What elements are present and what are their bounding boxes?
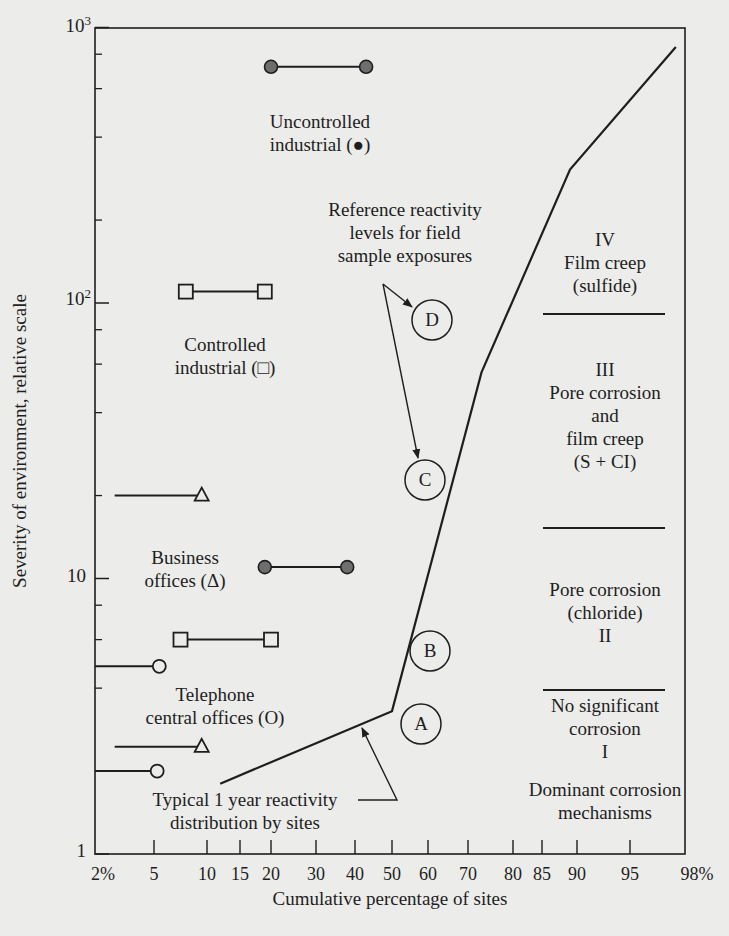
filled-circle-marker bbox=[341, 561, 354, 574]
filled-circle-marker bbox=[258, 561, 271, 574]
x-tick-label: 20 bbox=[246, 864, 296, 885]
square-marker bbox=[258, 285, 272, 299]
x-tick-label: 90 bbox=[552, 864, 602, 885]
triangle-marker bbox=[195, 739, 209, 752]
square-marker bbox=[264, 633, 278, 647]
filled-circle-marker bbox=[360, 60, 373, 73]
arrow-to-distribution bbox=[358, 728, 397, 800]
square-marker bbox=[179, 285, 193, 299]
x-tick-label: 95 bbox=[605, 864, 655, 885]
label-telephone-offices: Telephone central offices (O) bbox=[125, 683, 305, 729]
label-dominant-mechanisms: Dominant corrosion mechanisms bbox=[515, 778, 695, 824]
label-zone-iii: III Pore corrosion and film creep (S + C… bbox=[530, 358, 680, 473]
x-axis-label: Cumulative percentage of sites bbox=[190, 888, 590, 910]
label-controlled-industrial: Controlled industrial (□) bbox=[155, 333, 295, 379]
label-business-offices: Business offices (Δ) bbox=[130, 546, 240, 592]
x-tick-label: 5 bbox=[129, 864, 179, 885]
corrosion-severity-chart: 103 102 10 1 2%5101520304050607080859095… bbox=[0, 0, 729, 936]
open-circle-marker bbox=[151, 765, 164, 778]
label-uncontrolled-industrial: Uncontrolled industrial (●) bbox=[250, 110, 390, 156]
label-zone-i: No significant corrosion I bbox=[530, 694, 680, 763]
y-axis-label: Severity of environment, relative scale bbox=[9, 271, 31, 611]
y-tick-10: 10 bbox=[46, 565, 86, 587]
y-tick-1: 1 bbox=[46, 840, 86, 862]
reference-level-b: B bbox=[410, 639, 450, 662]
reference-level-a: A bbox=[401, 712, 441, 735]
label-zone-ii: Pore corrosion (chloride) II bbox=[530, 578, 680, 647]
y-tick-1000: 103 bbox=[51, 13, 91, 37]
label-typical-distribution: Typical 1 year reactivity distribution b… bbox=[130, 788, 360, 834]
x-tick-label: 98% bbox=[672, 864, 722, 885]
reference-level-c: C bbox=[405, 468, 445, 491]
x-tick-label: 2% bbox=[78, 864, 128, 885]
y-tick-100: 102 bbox=[51, 286, 91, 310]
square-marker bbox=[174, 633, 188, 647]
triangle-marker bbox=[195, 488, 209, 501]
open-circle-marker bbox=[153, 660, 166, 673]
filled-circle-marker bbox=[265, 60, 278, 73]
reference-level-d: D bbox=[412, 308, 452, 331]
x-tick-label: 70 bbox=[443, 864, 493, 885]
label-reference-levels: Reference reactivity levels for field sa… bbox=[305, 198, 505, 267]
label-zone-iv: IV Film creep (sulfide) bbox=[540, 228, 670, 297]
